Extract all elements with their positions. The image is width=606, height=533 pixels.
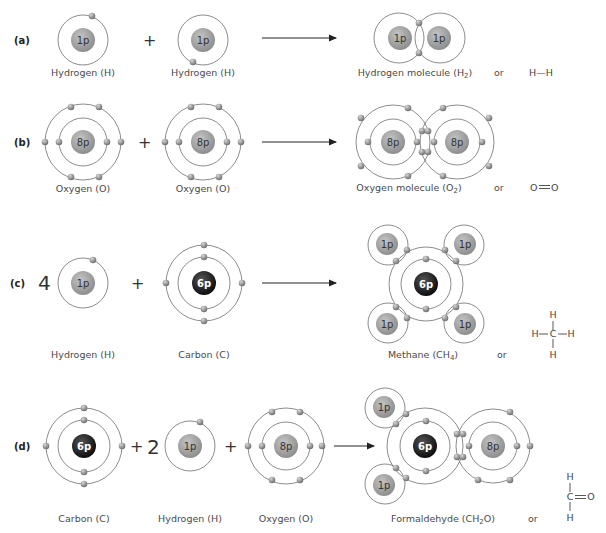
or-text: or: [494, 182, 504, 193]
oxygen-atom: 8p Oxygen (O): [42, 104, 125, 194]
plus-sign: +: [130, 437, 143, 456]
row-label-c: (c): [10, 278, 25, 289]
atom-label: Carbon (C): [178, 349, 229, 360]
svg-text:1p: 1p: [378, 402, 391, 413]
row-label-a: (a): [14, 35, 30, 46]
carbon-atom: 6p Carbon (C): [163, 242, 246, 360]
svg-text:8p: 8p: [280, 441, 293, 452]
atom-label: Carbon (C): [58, 513, 109, 524]
structural-formula-h2: H—H: [529, 67, 553, 78]
methane-molecule: 6p 1p 1p 1p 1p Methane (CH4): [368, 225, 484, 362]
svg-text:6p: 6p: [419, 279, 433, 290]
row-label-d: (d): [14, 441, 30, 452]
svg-text:1p: 1p: [77, 35, 90, 46]
plus-sign: +: [143, 31, 156, 50]
molecule-label: Hydrogen molecule (H2): [358, 67, 473, 80]
svg-text:8p: 8p: [487, 441, 500, 452]
atom-label: Hydrogen (H): [51, 349, 115, 360]
electron: [190, 59, 197, 66]
svg-text:H: H: [549, 309, 556, 320]
svg-text:1p: 1p: [394, 33, 407, 44]
svg-text:8p: 8p: [197, 137, 210, 148]
atom-label: Hydrogen (H): [158, 513, 222, 524]
oxygen-atom: 8p Oxygen (O): [245, 408, 326, 524]
svg-text:8p: 8p: [451, 137, 464, 148]
svg-text:6p: 6p: [197, 278, 211, 289]
structural-formula-o2: O O: [530, 182, 558, 193]
hydrogen-atom: 1p Hydrogen (H): [51, 257, 115, 360]
row-label-b: (b): [14, 137, 30, 148]
atom-label: Oxygen (O): [259, 513, 314, 524]
svg-text:C: C: [567, 491, 574, 502]
row-a: (a) 1p Hydrogen (H) + 1p Hydrogen (H) 1p…: [14, 13, 553, 80]
coefficient: 2: [147, 435, 160, 459]
structural-formula-ch2o: H C O H: [566, 471, 594, 523]
electron: [89, 13, 96, 20]
svg-text:H: H: [566, 512, 573, 523]
svg-text:1p: 1p: [459, 239, 472, 250]
svg-text:H: H: [566, 471, 573, 482]
svg-text:1p: 1p: [77, 278, 90, 289]
plus-sign: +: [224, 437, 237, 456]
formaldehyde-molecule: 6p 8p 1p 1p: [365, 388, 533, 526]
svg-text:1p: 1p: [381, 319, 394, 330]
svg-text:6p: 6p: [77, 441, 91, 452]
svg-text:O: O: [551, 182, 558, 193]
svg-text:1p: 1p: [381, 239, 394, 250]
atom-label: Hydrogen (H): [51, 67, 115, 78]
svg-text:1p: 1p: [197, 35, 210, 46]
atom-label: Hydrogen (H): [171, 67, 235, 78]
oxygen-molecule: 8p 8p Oxygen molecule (O2): [356, 105, 494, 195]
atom-label: Oxygen (O): [176, 183, 231, 194]
svg-text:8p: 8p: [387, 137, 400, 148]
or-text: or: [494, 67, 504, 78]
plus-sign: +: [131, 274, 144, 293]
structural-formula-ch4: H C H H H: [531, 309, 574, 360]
svg-text:H: H: [531, 328, 538, 339]
svg-text:1p: 1p: [378, 480, 391, 491]
row-c: (c) 4 1p Hydrogen (H) + 6p Carbon (C): [10, 225, 575, 362]
molecule-label: Methane (CH4): [388, 349, 458, 362]
svg-text:O: O: [587, 491, 594, 502]
row-b: (b) 8p Oxygen (O) + 8p: [14, 104, 558, 195]
oxygen-atom: 8p Oxygen (O): [162, 104, 245, 194]
atom-label: Oxygen (O): [56, 183, 111, 194]
svg-text:H: H: [567, 328, 574, 339]
svg-text:C: C: [550, 328, 557, 339]
or-text: or: [497, 349, 507, 360]
svg-text:1p: 1p: [433, 33, 446, 44]
carbon-atom: 6p Carbon (C): [43, 405, 126, 524]
svg-text:1p: 1p: [184, 441, 197, 452]
svg-text:6p: 6p: [418, 441, 432, 452]
row-d: (d) 6p Carbon (C) + 2 1p Hydrogen (H) +: [14, 388, 595, 526]
hydrogen-atom: 1p Hydrogen (H): [158, 419, 222, 524]
coefficient: 4: [38, 271, 51, 295]
plus-sign: +: [138, 133, 151, 152]
covalent-bonding-diagram: (a) 1p Hydrogen (H) + 1p Hydrogen (H) 1p…: [0, 0, 606, 533]
svg-text:1p: 1p: [459, 319, 472, 330]
hydrogen-atom: 1p Hydrogen (H): [171, 15, 235, 78]
hydrogen-atom: 1p Hydrogen (H): [51, 13, 115, 78]
svg-text:8p: 8p: [77, 137, 90, 148]
or-text: or: [528, 513, 538, 524]
svg-text:H: H: [549, 349, 556, 360]
hydrogen-molecule: 1p 1p Hydrogen molecule (H2): [358, 13, 473, 80]
molecule-label: Formaldehyde (CH2O): [391, 513, 495, 526]
molecule-label: Oxygen molecule (O2): [356, 182, 461, 195]
svg-text:O: O: [530, 182, 537, 193]
